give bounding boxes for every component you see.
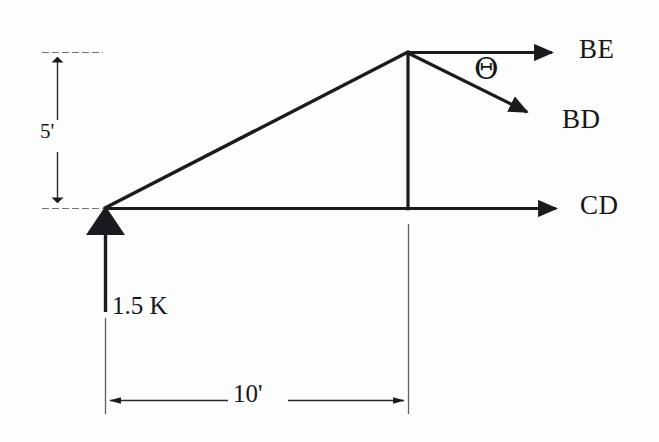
applied-load-arrowhead xyxy=(86,206,125,235)
force-vector-bd xyxy=(408,53,527,112)
span-dimension-label: 10' xyxy=(233,380,263,408)
height-dimension-label: 5' xyxy=(40,119,54,144)
force-label-be: BE xyxy=(579,34,615,65)
truss-top-chord-member xyxy=(105,52,408,208)
force-label-cd: CD xyxy=(580,190,619,221)
force-label-bd: BD xyxy=(562,104,601,135)
free-body-diagram-svg xyxy=(0,0,659,442)
diagram-canvas: BE BD CD Θ 1.5 K 5' 10' xyxy=(0,0,659,442)
angle-label-theta: Θ xyxy=(474,51,499,86)
applied-load-label: 1.5 K xyxy=(112,292,168,320)
